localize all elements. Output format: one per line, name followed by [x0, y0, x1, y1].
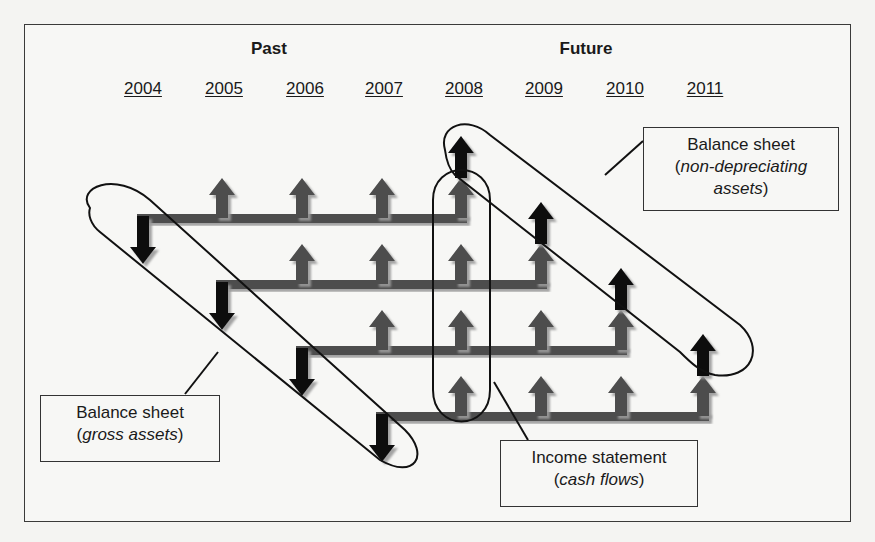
callout-subtitle: non-depreciating: [681, 157, 808, 176]
cash-flow-up-arrow-icon: [289, 178, 315, 218]
cash-flow-up-arrow-icon: [528, 310, 554, 350]
cash-flow-up-arrow-icon: [448, 178, 474, 218]
cash-flow-up-arrow-icon: [369, 310, 395, 350]
callout-title: Income statement: [501, 447, 697, 469]
cash-flow-up-arrow-icon: [690, 376, 716, 416]
cash-flow-up-arrow-icon: [209, 178, 235, 218]
paren: ): [763, 179, 769, 198]
year-label: 2009: [514, 79, 574, 99]
terminal-value-up-arrow-icon: [608, 268, 634, 310]
year-label: 2005: [194, 79, 254, 99]
callout-non-depreciating-assets: Balance sheet (non-depreciating assets): [643, 127, 839, 211]
callout-title: Balance sheet: [41, 402, 219, 424]
leader-gross-assets: [185, 352, 218, 394]
callout-subtitle: cash flows: [559, 470, 638, 489]
cash-flow-up-arrow-icon: [608, 376, 634, 416]
investment-down-arrow-icon: [130, 216, 156, 264]
paren: ): [178, 425, 184, 444]
paren: ): [639, 470, 645, 489]
cash-flow-up-arrow-icon: [528, 376, 554, 416]
year-label: 2008: [434, 79, 494, 99]
callout-subtitle: gross assets: [82, 425, 177, 444]
cash-flow-up-arrow-icon: [289, 244, 315, 284]
year-label: 2011: [675, 79, 735, 99]
callout-income-statement: Income statement (cash flows): [500, 440, 698, 507]
year-label: 2006: [275, 79, 335, 99]
cash-flow-up-arrow-icon: [608, 310, 634, 350]
leader-non-depreciating: [605, 141, 643, 175]
callout-subtitle-cont: assets: [714, 179, 763, 198]
cash-flow-up-arrow-icon: [448, 244, 474, 284]
year-label: 2010: [595, 79, 655, 99]
cash-flow-up-arrow-icon: [448, 310, 474, 350]
cash-flow-up-arrow-icon: [369, 178, 395, 218]
past-label: Past: [209, 39, 329, 59]
cash-flow-up-arrow-icon: [448, 376, 474, 416]
year-label: 2004: [113, 79, 173, 99]
future-label: Future: [526, 39, 646, 59]
callout-gross-assets: Balance sheet (gross assets): [40, 395, 220, 462]
terminal-value-up-arrow-icon: [528, 202, 554, 244]
year-label: 2007: [354, 79, 414, 99]
leader-income-statement: [494, 382, 528, 440]
cash-flow-up-arrow-icon: [369, 244, 395, 284]
callout-title: Balance sheet: [644, 134, 838, 156]
